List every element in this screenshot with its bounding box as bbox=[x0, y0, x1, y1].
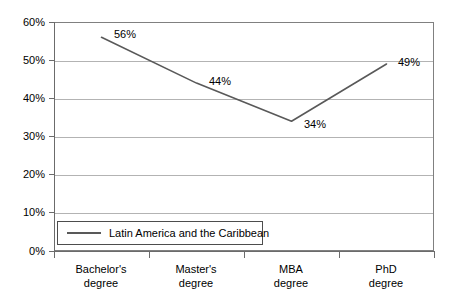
x-axis-label-phd-line1: PhD bbox=[331, 262, 441, 276]
y-tick-50 bbox=[49, 60, 54, 61]
y-axis-label-60-text: 60% bbox=[0, 17, 45, 28]
y-tick-60 bbox=[49, 22, 54, 23]
x-axis-label-phd: PhD degree bbox=[331, 262, 441, 290]
y-axis-label-0-text: 0% bbox=[0, 246, 45, 257]
y-axis-label-30-text: 30% bbox=[0, 131, 45, 142]
legend[interactable]: Latin America and the Caribbean bbox=[57, 221, 263, 245]
x-tick-3 bbox=[339, 252, 340, 258]
gridline-10 bbox=[55, 213, 433, 214]
gridline-20 bbox=[55, 175, 433, 176]
x-axis-label-bachelors-line2: degree bbox=[46, 276, 156, 290]
x-tick-4 bbox=[434, 252, 435, 258]
y-axis-label-20-text: 20% bbox=[0, 169, 45, 180]
y-axis-label-40-text: 40% bbox=[0, 93, 45, 104]
line-chart: 60% 50% 40% 30% 20% 10% 0% Bachelor's de… bbox=[0, 0, 457, 302]
y-tick-40 bbox=[49, 98, 54, 99]
x-axis-label-bachelors-line1: Bachelor's bbox=[46, 262, 156, 276]
point-label-phd: 49% bbox=[398, 57, 420, 68]
y-axis-label-50-text: 50% bbox=[0, 55, 45, 66]
plot-area bbox=[54, 22, 434, 251]
x-tick-1 bbox=[149, 252, 150, 258]
gridline-50 bbox=[55, 61, 433, 62]
x-axis-label-masters: Master's degree bbox=[141, 262, 251, 290]
x-tick-2 bbox=[244, 252, 245, 258]
x-axis-label-mba: MBA degree bbox=[236, 262, 346, 290]
legend-label: Latin America and the Caribbean bbox=[109, 227, 269, 239]
y-axis-label-10-text: 10% bbox=[0, 207, 45, 218]
x-axis-label-phd-line2: degree bbox=[331, 276, 441, 290]
point-label-bachelors: 56% bbox=[114, 29, 136, 40]
x-axis-label-mba-line1: MBA bbox=[236, 262, 346, 276]
gridline-30 bbox=[55, 137, 433, 138]
point-label-masters: 44% bbox=[209, 76, 231, 87]
y-tick-10 bbox=[49, 212, 54, 213]
y-axis-line bbox=[54, 22, 55, 252]
x-axis-label-mba-line2: degree bbox=[236, 276, 346, 290]
gridline-40 bbox=[55, 99, 433, 100]
x-axis-label-masters-line1: Master's bbox=[141, 262, 251, 276]
y-tick-20 bbox=[49, 174, 54, 175]
x-axis-label-bachelors: Bachelor's degree bbox=[46, 262, 156, 290]
point-label-mba: 34% bbox=[304, 119, 326, 130]
x-axis-label-masters-line2: degree bbox=[141, 276, 251, 290]
y-tick-30 bbox=[49, 136, 54, 137]
legend-line-swatch-icon bbox=[67, 232, 101, 234]
x-tick-0 bbox=[54, 252, 55, 258]
